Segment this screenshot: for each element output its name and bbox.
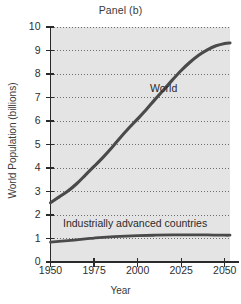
y-tick-label: 1 [19,232,41,244]
y-tick-label: 5 [19,138,41,150]
x-tick-label: 2000 [116,264,160,276]
series-label-industrially-advanced-countries: Industrially advanced countries [63,217,207,229]
y-tick-label: 2 [19,208,41,220]
y-tick-label: 4 [19,161,41,173]
x-axis-label: Year [0,285,241,296]
x-tick-label: 1950 [29,264,73,276]
x-tick-label: 1975 [72,264,116,276]
x-tick-label: 2050 [203,264,241,276]
series-label-world: World [150,82,177,94]
y-tick-label: 9 [19,44,41,56]
y-tick-label: 10 [19,20,41,32]
y-tick-label: 8 [19,67,41,79]
y-tick-label: 3 [19,185,41,197]
y-tick-label: 6 [19,114,41,126]
y-tick-label: 7 [19,91,41,103]
chart-figure: Panel (b) World Population (billions) 01… [0,0,241,304]
x-tick-label: 2025 [159,264,203,276]
